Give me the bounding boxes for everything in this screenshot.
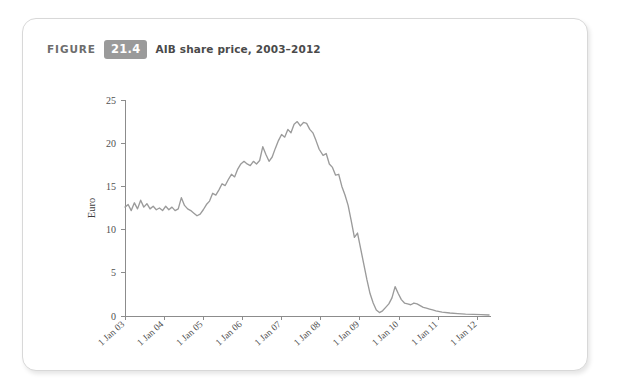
x-tick-label: 1 Jan 10 <box>370 319 400 348</box>
x-tick-label: 1 Jan 09 <box>331 319 361 348</box>
y-tick-label: 25 <box>106 95 116 106</box>
figure-card: FIGURE 21.4 AIB share price, 2003–2012 0… <box>22 18 588 371</box>
figure-label: FIGURE <box>47 43 96 55</box>
data-series-line <box>125 122 489 315</box>
y-axis-title: Euro <box>86 198 97 218</box>
chart-plot-area: 05101520251 Jan 031 Jan 041 Jan 051 Jan … <box>79 64 503 352</box>
x-tick-label: 1 Jan 05 <box>174 319 204 348</box>
figure-number-badge: 21.4 <box>104 40 148 59</box>
line-chart-svg: 05101520251 Jan 031 Jan 041 Jan 051 Jan … <box>79 64 503 352</box>
figure-caption: FIGURE 21.4 AIB share price, 2003–2012 <box>47 39 321 59</box>
x-tick-label: 1 Jan 03 <box>96 319 126 348</box>
y-tick-label: 0 <box>111 311 116 322</box>
x-tick-label: 1 Jan 07 <box>253 319 283 348</box>
x-tick-label: 1 Jan 08 <box>292 319 322 348</box>
y-tick-label: 20 <box>106 138 116 149</box>
y-tick-label: 10 <box>106 224 116 235</box>
x-tick-label: 1 Jan 11 <box>410 319 440 348</box>
x-tick-label: 1 Jan 06 <box>214 319 244 348</box>
y-tick-label: 5 <box>111 267 116 278</box>
figure-title: AIB share price, 2003–2012 <box>155 43 320 55</box>
x-tick-label: 1 Jan 04 <box>135 319 165 348</box>
x-tick-label: 1 Jan 12 <box>448 319 478 348</box>
y-tick-label: 15 <box>106 181 116 192</box>
